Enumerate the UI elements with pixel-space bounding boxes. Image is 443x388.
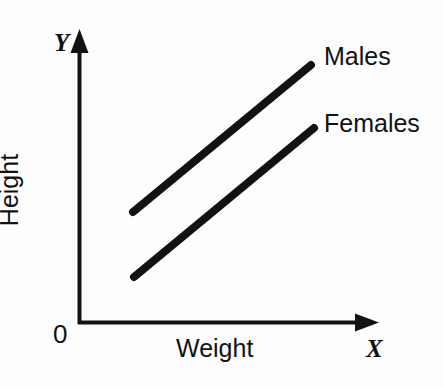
series-label-females: Females bbox=[324, 111, 420, 136]
y-axis-symbol-label: Y bbox=[54, 30, 69, 55]
origin-label: 0 bbox=[53, 321, 67, 347]
series-line-males bbox=[133, 65, 311, 212]
x-axis-title: Weight bbox=[176, 336, 253, 361]
regression-lines-figure: Y X 0 Height Weight Males Females bbox=[0, 0, 443, 388]
y-axis-title: Height bbox=[0, 140, 22, 240]
x-axis-symbol-label: X bbox=[366, 336, 383, 361]
y-axis-arrowhead bbox=[71, 29, 89, 53]
x-axis-arrowhead bbox=[355, 314, 379, 332]
series-line-females bbox=[134, 128, 314, 277]
series-label-males: Males bbox=[324, 44, 391, 69]
